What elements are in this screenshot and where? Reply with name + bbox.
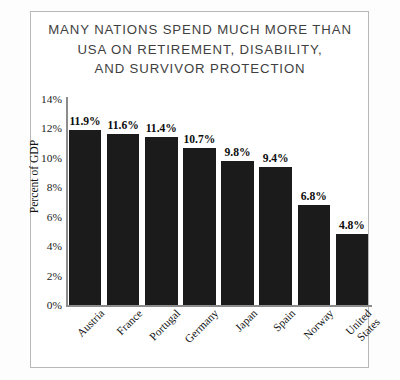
x-category-label: Japan [232, 307, 259, 334]
bar [336, 234, 369, 305]
bar [107, 134, 140, 305]
bar-value-label: 4.8% [339, 219, 365, 232]
x-category-label: Austria [74, 307, 106, 339]
x-category-label: Portugal [147, 307, 183, 343]
y-tick-label: 6% [47, 211, 62, 223]
y-tick-label: 8% [47, 181, 62, 193]
x-axis-category-labels: AustriaFrancePortugalGermanyJapanSpainNo… [66, 307, 372, 377]
chart-title: MANY NATIONS SPEND MUCH MORE THAN USA ON… [34, 20, 366, 79]
bar-group: 11.6% [107, 99, 140, 305]
bar-value-label: 11.4% [146, 122, 177, 135]
bar [259, 167, 292, 305]
bar-value-label: 9.8% [225, 146, 251, 159]
bar [298, 205, 331, 305]
y-tick-label: 2% [47, 270, 62, 282]
chart-figure: MANY NATIONS SPEND MUCH MORE THAN USA ON… [0, 0, 400, 380]
bar-group: 11.9% [69, 99, 102, 305]
bar-group: 11.4% [145, 99, 178, 305]
bar [145, 137, 178, 305]
x-category-label: United States [343, 307, 382, 346]
x-category-label: Spain [270, 307, 297, 334]
bar-group: 9.8% [221, 99, 254, 305]
bar-value-label: 9.4% [263, 152, 289, 165]
bar-value-label: 11.6% [108, 119, 139, 132]
y-tick-label: 14% [41, 93, 62, 105]
plot-area: 11.9%11.6%11.4%10.7%9.8%9.4%6.8%4.8% [66, 99, 371, 305]
x-category-label: Norway [301, 307, 336, 342]
bar-value-label: 11.9% [69, 115, 100, 128]
bar [69, 130, 102, 305]
x-category-label: Germany [183, 307, 222, 346]
y-tick-label: 10% [41, 152, 62, 164]
bar-group: 4.8% [336, 99, 369, 305]
y-tick-label: 12% [41, 122, 62, 134]
bar-group: 9.4% [259, 99, 292, 305]
y-axis-title: Percent of GDP [28, 112, 41, 242]
bar-group: 10.7% [183, 99, 216, 305]
y-tick-label: 0% [47, 299, 62, 311]
bar-value-label: 10.7% [183, 133, 215, 146]
bar-group: 6.8% [298, 99, 331, 305]
bar [221, 161, 254, 305]
x-category-label: France [114, 307, 145, 338]
bar [183, 148, 216, 305]
bar-value-label: 6.8% [301, 190, 327, 203]
y-tick-label: 4% [47, 240, 62, 252]
